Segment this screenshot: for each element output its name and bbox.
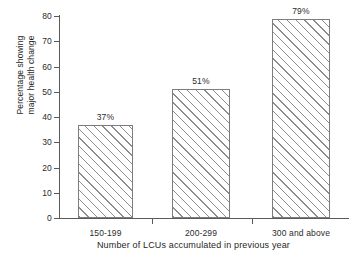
y-axis-tick [54,16,59,17]
y-axis-tick [54,168,59,169]
y-axis-tick [54,193,59,194]
y-axis-tick-label: 40 [42,113,52,122]
y-axis-title: Percentage showing major health change [15,0,37,150]
y-axis-tick-label: 60 [42,63,52,72]
x-axis-category-label: 200-299 [157,228,245,238]
y-axis-tick [54,92,59,93]
y-axis-tick-label: 0 [47,214,52,223]
bar [78,125,133,218]
y-axis-tick-label: 80 [42,12,52,21]
y-axis-tick-label: 30 [42,138,52,147]
y-axis-tick [54,117,59,118]
y-axis-tick [54,218,59,219]
bar-chart: 01020304050607080 37%51%79% 150-199200-2… [0,0,361,262]
plot-area: 37%51%79% [60,16,348,218]
x-axis-divider-tick [152,219,153,224]
bar [172,89,230,218]
y-axis-tick [54,142,59,143]
bar-value-label: 79% [272,7,330,16]
y-axis-tick-label: 70 [42,37,52,46]
y-axis-title-line-2: major health change [26,0,37,150]
x-axis-line [59,218,349,219]
x-axis-divider-tick [252,219,253,224]
y-axis-tick-label: 10 [42,189,52,198]
y-axis-tick [54,41,59,42]
x-axis-title: Number of LCUs accumulated in previous y… [0,240,361,251]
y-axis-tick-label: 20 [42,164,52,173]
x-axis-category-label: 300 and above [257,228,345,238]
bar [272,19,330,218]
bar-value-label: 51% [172,77,230,86]
x-axis-category-label: 150-199 [63,228,148,238]
y-axis-title-line-1: Percentage showing [15,0,26,150]
bar-value-label: 37% [78,113,133,122]
y-axis-tick [54,67,59,68]
y-axis-tick-label: 50 [42,88,52,97]
